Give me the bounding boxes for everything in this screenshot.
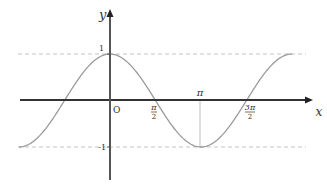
x-tick-label-pi: π bbox=[196, 87, 204, 98]
x-axis-label: x bbox=[316, 105, 323, 119]
cosine-chart: y x O 1 -1 π π 2 3π 2 bbox=[0, 0, 327, 187]
origin-label: O bbox=[113, 105, 120, 115]
y-tick-label-1: 1 bbox=[99, 44, 104, 53]
x-tick-label-half-pi-den: 2 bbox=[152, 113, 156, 121]
y-tick-label-neg1: -1 bbox=[98, 143, 106, 152]
y-axis-label: y bbox=[98, 7, 107, 22]
x-tick-label-three-half-pi-den: 2 bbox=[248, 113, 252, 121]
y-axis-arrow-icon bbox=[107, 9, 114, 17]
x-tick-label-three-half-pi-num: 3π bbox=[245, 103, 256, 112]
x-axis-arrow-icon bbox=[305, 97, 313, 104]
x-tick-label-half-pi-num: π bbox=[150, 103, 157, 112]
